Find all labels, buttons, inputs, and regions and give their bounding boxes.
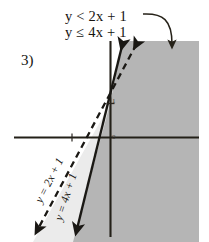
inequality-2-label: y ≤ 4x + 1: [65, 24, 127, 41]
origin-tick-label: 0: [112, 133, 116, 141]
inequality-graph-figure: 3) y < 2x + 1 y ≤ 4x + 1 y = 2x + 1 y = …: [0, 0, 209, 242]
y-intercept-tick-label: 1: [112, 97, 116, 105]
problem-number-label: 3): [21, 52, 34, 69]
annotation-curved-arrow: [143, 14, 172, 44]
inequality-1-label: y < 2x + 1: [65, 8, 127, 25]
